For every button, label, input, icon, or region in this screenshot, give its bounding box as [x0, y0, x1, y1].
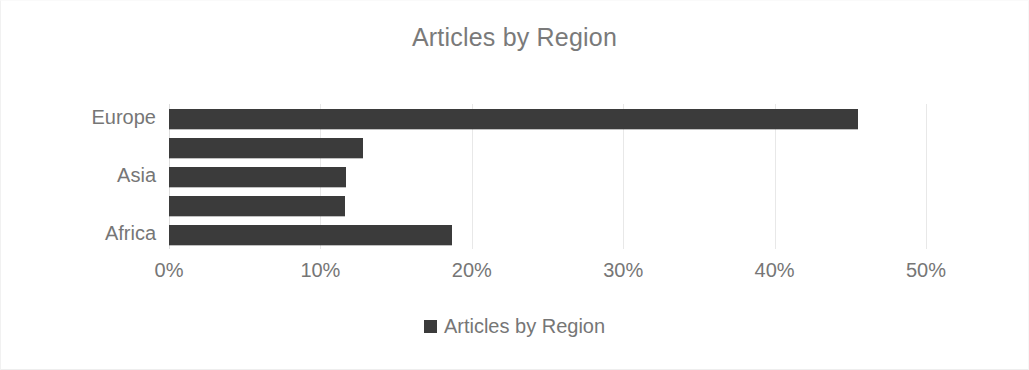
value-tick-label-40pct: 40%	[755, 259, 795, 282]
legend-color-swatch	[424, 320, 437, 333]
category-label-asia: Asia	[1, 164, 156, 187]
chart-container: Articles by Region EuropeAsiaAfrica 0%10…	[0, 0, 1029, 370]
bar-asia[interactable]	[169, 167, 346, 187]
bar-africa[interactable]	[169, 225, 452, 245]
bar-slot	[169, 133, 926, 162]
bar-item-2[interactable]	[169, 138, 363, 158]
category-axis-labels: EuropeAsiaAfrica	[1, 104, 156, 249]
gridline-50pct	[926, 104, 927, 249]
value-tick-label-30pct: 30%	[603, 259, 643, 282]
legend-label: Articles by Region	[444, 315, 605, 338]
bar-slot	[169, 162, 926, 191]
value-tick-label-10pct: 10%	[300, 259, 340, 282]
value-tick-label-0pct: 0%	[155, 259, 184, 282]
bar-series	[169, 104, 926, 249]
bar-slot	[169, 220, 926, 249]
value-axis-labels: 0%10%20%30%40%50%	[169, 259, 926, 291]
bar-europe[interactable]	[169, 109, 858, 129]
bar-slot	[169, 191, 926, 220]
chart-legend: Articles by Region	[1, 315, 1028, 338]
plot-area	[169, 104, 926, 249]
value-tick-label-50pct: 50%	[906, 259, 946, 282]
category-label-europe: Europe	[1, 106, 156, 129]
bar-item-4[interactable]	[169, 196, 345, 216]
bar-slot	[169, 104, 926, 133]
chart-title: Articles by Region	[1, 23, 1028, 52]
value-tick-label-20pct: 20%	[452, 259, 492, 282]
category-label-africa: Africa	[1, 222, 156, 245]
